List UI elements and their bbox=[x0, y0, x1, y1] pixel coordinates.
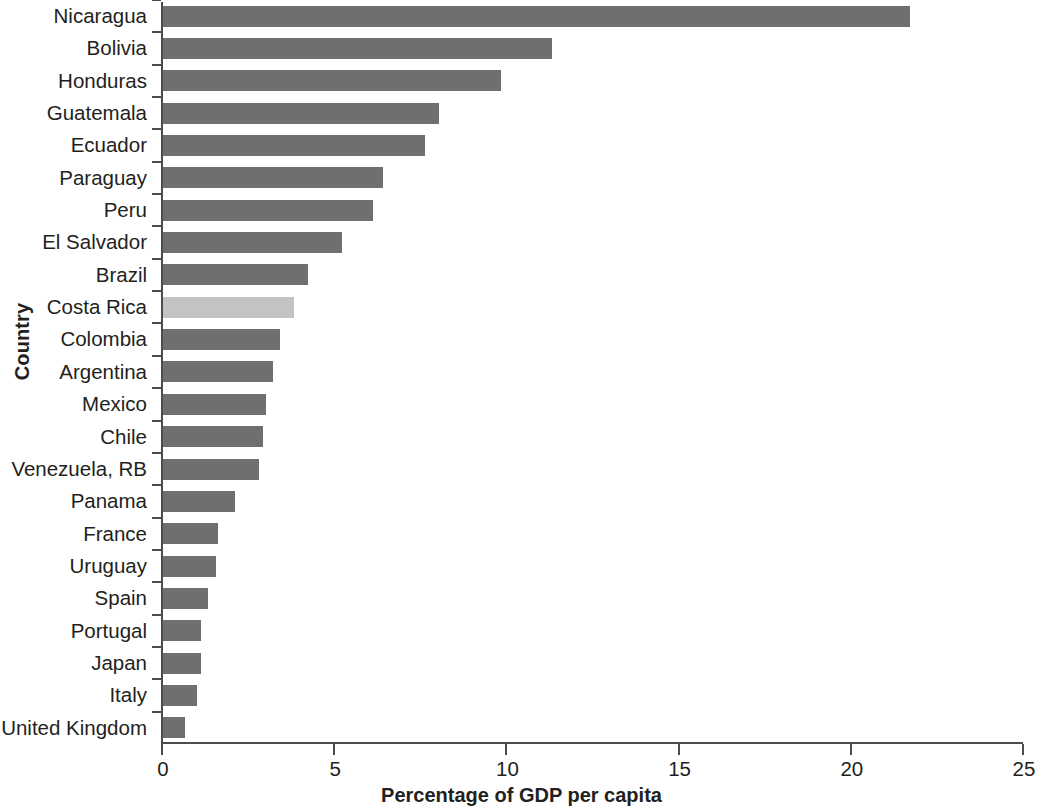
category-tick bbox=[152, 452, 161, 454]
x-axis-tick-label: 10 bbox=[477, 757, 537, 781]
plot-area: NicaraguaBoliviaHondurasGuatemalaEcuador… bbox=[161, 0, 1022, 744]
category-tick bbox=[152, 517, 161, 519]
bar-row: Portugal bbox=[161, 615, 1022, 646]
category-tick bbox=[152, 128, 161, 130]
bar bbox=[163, 491, 235, 512]
bar bbox=[163, 329, 280, 350]
bar-row: Peru bbox=[161, 194, 1022, 225]
x-axis-tick bbox=[161, 744, 163, 755]
category-tick bbox=[152, 614, 161, 616]
x-axis-tick-label: 5 bbox=[305, 757, 365, 781]
bar-row: Guatemala bbox=[161, 97, 1022, 128]
category-tick bbox=[152, 96, 161, 98]
category-label: Argentina bbox=[0, 356, 147, 387]
bar bbox=[163, 620, 201, 641]
bar bbox=[163, 426, 263, 447]
bar bbox=[163, 394, 266, 415]
bar bbox=[163, 232, 342, 253]
category-label: Portugal bbox=[0, 615, 147, 646]
bar bbox=[163, 6, 910, 27]
x-axis-tick bbox=[505, 744, 507, 755]
category-tick bbox=[152, 581, 161, 583]
category-label: Japan bbox=[0, 647, 147, 678]
category-tick bbox=[152, 193, 161, 195]
category-label: Honduras bbox=[0, 65, 147, 96]
category-tick bbox=[152, 0, 161, 1]
category-tick bbox=[152, 290, 161, 292]
bar bbox=[163, 361, 273, 382]
category-label: El Salvador bbox=[0, 226, 147, 257]
bar-row: Japan bbox=[161, 647, 1022, 678]
category-tick bbox=[152, 646, 161, 648]
category-tick bbox=[152, 420, 161, 422]
bar-row: Honduras bbox=[161, 65, 1022, 96]
bar-row: Ecuador bbox=[161, 129, 1022, 160]
category-tick bbox=[152, 64, 161, 66]
bar-row: Bolivia bbox=[161, 32, 1022, 63]
bar bbox=[163, 135, 425, 156]
x-axis-tick-label: 20 bbox=[822, 757, 882, 781]
category-label: Brazil bbox=[0, 259, 147, 290]
category-label: United Kingdom bbox=[0, 712, 147, 743]
bar bbox=[163, 556, 216, 577]
category-label: France bbox=[0, 518, 147, 549]
bar bbox=[163, 38, 552, 59]
category-tick bbox=[152, 549, 161, 551]
bar-row: Costa Rica bbox=[161, 291, 1022, 322]
bar-chart: Country NicaraguaBoliviaHondurasGuatemal… bbox=[0, 0, 1043, 811]
x-axis-tick bbox=[678, 744, 680, 755]
bar-row: Venezuela, RB bbox=[161, 453, 1022, 484]
category-label: Guatemala bbox=[0, 97, 147, 128]
category-label: Venezuela, RB bbox=[0, 453, 147, 484]
category-label: Italy bbox=[0, 679, 147, 710]
bar bbox=[163, 685, 197, 706]
bar-row: El Salvador bbox=[161, 226, 1022, 257]
category-label: Nicaragua bbox=[0, 0, 147, 31]
bar bbox=[163, 103, 439, 124]
category-label: Peru bbox=[0, 194, 147, 225]
category-tick bbox=[152, 258, 161, 260]
bar-row: Brazil bbox=[161, 259, 1022, 290]
bar bbox=[163, 200, 373, 221]
category-label: Uruguay bbox=[0, 550, 147, 581]
bar bbox=[163, 167, 383, 188]
category-tick bbox=[152, 161, 161, 163]
bar-row: Colombia bbox=[161, 323, 1022, 354]
x-axis-tick-label: 25 bbox=[994, 757, 1043, 781]
bar bbox=[163, 588, 208, 609]
category-tick bbox=[152, 31, 161, 33]
x-axis-tick-label: 0 bbox=[133, 757, 193, 781]
bar-row: Argentina bbox=[161, 356, 1022, 387]
category-tick bbox=[152, 678, 161, 680]
category-tick bbox=[152, 387, 161, 389]
x-axis-tick bbox=[850, 744, 852, 755]
category-label: Ecuador bbox=[0, 129, 147, 160]
bar-row: United Kingdom bbox=[161, 712, 1022, 743]
bar-row: Italy bbox=[161, 679, 1022, 710]
bar bbox=[163, 264, 308, 285]
x-axis-tick bbox=[333, 744, 335, 755]
bar bbox=[163, 70, 501, 91]
category-label: Costa Rica bbox=[0, 291, 147, 322]
category-label: Colombia bbox=[0, 323, 147, 354]
x-axis-title: Percentage of GDP per capita bbox=[0, 784, 1043, 807]
bar-row: France bbox=[161, 518, 1022, 549]
category-label: Chile bbox=[0, 421, 147, 452]
bar-row: Mexico bbox=[161, 388, 1022, 419]
category-label: Mexico bbox=[0, 388, 147, 419]
category-tick bbox=[152, 225, 161, 227]
bar bbox=[163, 297, 294, 318]
bar bbox=[163, 653, 201, 674]
category-tick bbox=[152, 322, 161, 324]
bar-row: Paraguay bbox=[161, 162, 1022, 193]
category-label: Paraguay bbox=[0, 162, 147, 193]
category-tick bbox=[152, 355, 161, 357]
category-tick bbox=[152, 711, 161, 713]
bar-row: Spain bbox=[161, 582, 1022, 613]
bar-row: Uruguay bbox=[161, 550, 1022, 581]
x-axis-tick bbox=[1022, 744, 1024, 755]
category-tick bbox=[152, 484, 161, 486]
bar-row: Panama bbox=[161, 485, 1022, 516]
x-axis-tick-label: 15 bbox=[650, 757, 710, 781]
category-label: Spain bbox=[0, 582, 147, 613]
